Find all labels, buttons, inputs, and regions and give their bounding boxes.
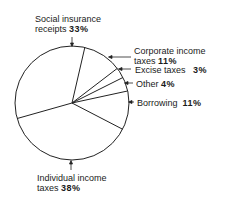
label-other: Other 4% [136,79,175,89]
label-text: taxes [37,183,59,193]
label-text: Social insurance [35,14,101,24]
label-social-insurance: Social insurance receipts 33% [35,14,101,34]
label-percent: 38% [61,183,81,193]
label-text: Borrowing [137,98,178,108]
pie-slices [15,46,129,160]
label-text: Other [136,79,159,89]
label-text: receipts [35,24,67,34]
label-borrowing: Borrowing 11% [137,98,202,108]
label-text: Individual income [37,173,107,183]
label-corporate-income-taxes: Corporate income taxes 11% [134,46,206,66]
label-percent: 4% [161,79,175,89]
label-individual-income-taxes: Individual income taxes 38% [37,173,107,193]
label-percent: 33% [69,24,89,34]
label-text: Corporate income [134,46,206,56]
label-text: Excise taxes [135,65,186,75]
label-excise-taxes: Excise taxes 3% [135,65,207,75]
label-percent: 3% [193,65,207,75]
label-percent: 11% [183,98,202,108]
